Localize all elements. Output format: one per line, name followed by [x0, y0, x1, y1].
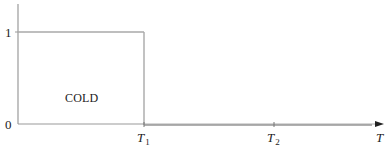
x-tick-label-t2: T2 [267, 131, 280, 147]
t1-sub: 1 [145, 137, 150, 147]
y-tick-label-1: 1 [5, 26, 12, 39]
t2-sub: 2 [275, 137, 280, 147]
y-tick-label-0: 0 [5, 118, 12, 131]
t1-main: T [137, 130, 144, 145]
region-label-cold: COLD [65, 92, 98, 104]
x-axis-label: T [376, 131, 383, 144]
x-tick-label-t1: T1 [137, 131, 150, 147]
chart-canvas [0, 0, 388, 150]
t2-main: T [267, 130, 274, 145]
x-axis-arrow-icon [375, 121, 384, 127]
